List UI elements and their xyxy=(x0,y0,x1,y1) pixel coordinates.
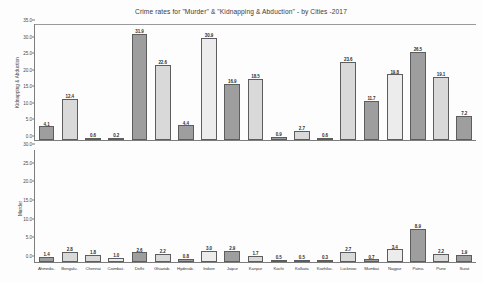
bar-slot[interactable]: 1.7 xyxy=(244,150,267,262)
bar-slot[interactable]: 4.4 xyxy=(174,24,197,140)
bar[interactable]: 0.9 xyxy=(271,137,287,140)
bar-value-label: 7.2 xyxy=(461,111,467,116)
bar-slot[interactable]: 4.1 xyxy=(35,24,58,140)
bar-slot[interactable]: 7.2 xyxy=(453,24,476,140)
x-axis-label: Indore xyxy=(197,264,220,276)
bar-slot[interactable]: 2.8 xyxy=(58,150,81,262)
x-axis-label: Kozhiko.. xyxy=(313,264,336,276)
bar-slot[interactable]: 1.9 xyxy=(453,150,476,262)
bar[interactable]: 2.2 xyxy=(433,254,449,262)
bar-value-label: 0.2 xyxy=(113,133,119,138)
bar-value-label: 1.0 xyxy=(113,253,119,258)
bar-slot[interactable]: 22.6 xyxy=(151,24,174,140)
bar-slot[interactable]: 16.9 xyxy=(221,24,244,140)
bar-slot[interactable]: 30.9 xyxy=(197,24,220,140)
bar[interactable]: 2.7 xyxy=(340,252,356,262)
bar-slot[interactable]: 12.4 xyxy=(58,24,81,140)
bar[interactable]: 2.2 xyxy=(155,254,171,262)
bar[interactable]: 4.4 xyxy=(178,125,194,140)
bar-slot[interactable]: 0.3 xyxy=(313,150,336,262)
bar[interactable]: 31.9 xyxy=(132,34,148,140)
y-tick-label: 10.0 xyxy=(23,216,32,221)
bar-slot[interactable]: 0.5 xyxy=(267,150,290,262)
x-axis-label: Lucknow xyxy=(337,264,360,276)
bar-slot[interactable]: 2.6 xyxy=(128,150,151,262)
bar[interactable]: 4.1 xyxy=(39,126,55,140)
bar-slot[interactable]: 23.6 xyxy=(337,24,360,140)
bar-value-label: 19.8 xyxy=(390,70,398,75)
x-axis-label: Surat xyxy=(453,264,476,276)
chart-figure: Crime rates for "Murder" & "Kidnapping &… xyxy=(0,0,482,283)
bar[interactable]: 23.6 xyxy=(340,62,356,140)
bar-slot[interactable]: 0.9 xyxy=(267,24,290,140)
y-tick-label: 20.0 xyxy=(23,67,32,72)
bar[interactable]: 8.9 xyxy=(410,229,426,262)
bar-value-label: 18.5 xyxy=(251,74,259,79)
x-axis-label: Nagpur xyxy=(383,264,406,276)
bar-slot[interactable]: 2.7 xyxy=(337,150,360,262)
bar-slot[interactable]: 0.8 xyxy=(174,150,197,262)
bar-slot[interactable]: 3.4 xyxy=(383,150,406,262)
bar[interactable]: 0.5 xyxy=(294,260,310,262)
bar[interactable]: 1.7 xyxy=(248,256,264,262)
bar-slot[interactable]: 18.5 xyxy=(244,24,267,140)
bar[interactable]: 19.8 xyxy=(387,74,403,140)
bar[interactable]: 2.8 xyxy=(62,252,78,262)
bar-slot[interactable]: 0.5 xyxy=(290,150,313,262)
y-axis-label-murder: Murder xyxy=(18,179,23,239)
bar[interactable]: 30.9 xyxy=(201,38,217,140)
bar-slot[interactable]: 0.6 xyxy=(313,24,336,140)
bar[interactable]: 1.0 xyxy=(108,258,124,262)
bar-slot[interactable]: 2.9 xyxy=(221,150,244,262)
bar-slot[interactable]: 1.8 xyxy=(81,150,104,262)
bar[interactable]: 1.4 xyxy=(39,257,55,262)
bar[interactable]: 0.2 xyxy=(108,138,124,140)
bar[interactable]: 0.7 xyxy=(364,259,380,262)
bar-slot[interactable]: 19.8 xyxy=(383,24,406,140)
bar[interactable]: 3.0 xyxy=(201,251,217,262)
bar-slot[interactable]: 31.9 xyxy=(128,24,151,140)
bar[interactable]: 18.5 xyxy=(248,79,264,140)
y-tick-label: 25.0 xyxy=(23,51,32,56)
bar-slot[interactable]: 3.0 xyxy=(197,150,220,262)
bar[interactable]: 0.3 xyxy=(317,260,333,262)
bar[interactable]: 2.9 xyxy=(224,251,240,262)
bar-series-murder: 1.42.81.81.02.62.20.83.02.91.70.50.50.32… xyxy=(35,150,476,262)
bar-slot[interactable]: 11.7 xyxy=(360,24,383,140)
bar-slot[interactable]: 2.2 xyxy=(429,150,452,262)
bar-slot[interactable]: 26.5 xyxy=(406,24,429,140)
bar-slot[interactable]: 2.2 xyxy=(151,150,174,262)
bar-value-label: 4.4 xyxy=(183,121,189,126)
x-axis-label: Patna xyxy=(406,264,429,276)
bar[interactable]: 0.6 xyxy=(317,138,333,140)
bar[interactable]: 16.9 xyxy=(224,84,240,140)
bar-slot[interactable]: 19.1 xyxy=(429,24,452,140)
bar[interactable]: 1.9 xyxy=(456,255,472,262)
bar-series-kidnapping: 4.112.40.60.231.922.64.430.916.918.50.92… xyxy=(35,24,476,140)
bar[interactable]: 26.5 xyxy=(410,52,426,140)
bar[interactable]: 1.8 xyxy=(85,255,101,262)
bar[interactable]: 2.7 xyxy=(294,131,310,140)
bar-value-label: 1.4 xyxy=(44,252,50,257)
bar-value-label: 30.9 xyxy=(205,33,213,38)
bar[interactable]: 22.6 xyxy=(155,65,171,140)
bar[interactable]: 3.4 xyxy=(387,249,403,262)
bar[interactable]: 0.8 xyxy=(178,259,194,262)
bar-slot[interactable]: 2.7 xyxy=(290,24,313,140)
bar[interactable]: 2.6 xyxy=(132,252,148,262)
bar[interactable]: 11.7 xyxy=(364,101,380,140)
bar-slot[interactable]: 0.2 xyxy=(105,24,128,140)
bar[interactable]: 12.4 xyxy=(62,99,78,140)
bar[interactable]: 0.6 xyxy=(85,138,101,140)
bar-slot[interactable]: 8.9 xyxy=(406,150,429,262)
x-axis-label: Coimbat.. xyxy=(105,264,128,276)
bar[interactable]: 0.5 xyxy=(271,260,287,262)
bar-slot[interactable]: 1.0 xyxy=(105,150,128,262)
bar-value-label: 0.6 xyxy=(90,133,96,138)
bar-slot[interactable]: 0.7 xyxy=(360,150,383,262)
bar-slot[interactable]: 1.4 xyxy=(35,150,58,262)
y-tick-label: 35.0 xyxy=(23,18,32,23)
bar[interactable]: 19.1 xyxy=(433,77,449,140)
bar-slot[interactable]: 0.6 xyxy=(81,24,104,140)
bar[interactable]: 7.2 xyxy=(456,116,472,140)
